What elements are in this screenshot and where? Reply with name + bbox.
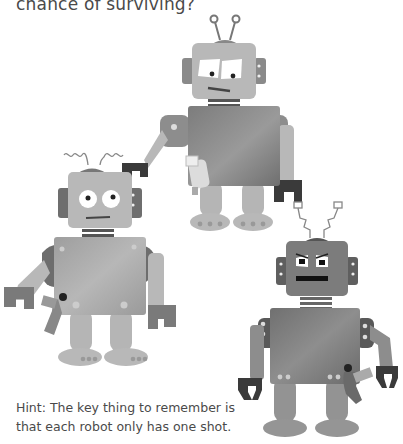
hint-text: Hint: The key thing to remember is that … [16,398,235,436]
claw-icon [148,305,176,329]
claw-icon [238,378,262,400]
right-robot-illustration [230,200,403,444]
antenna-icon [211,16,240,41]
claw-icon [4,287,34,309]
left-robot-illustration [0,145,200,375]
antenna-icon [64,153,123,165]
claw-icon [376,366,398,388]
hint-line-1: Hint: The key thing to remember is [16,398,235,417]
antenna-icon [294,202,342,238]
hint-line-2: that each robot only has one shot. [16,417,235,436]
